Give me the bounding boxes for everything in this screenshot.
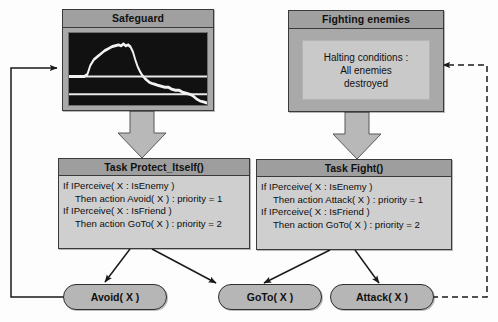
action-goto[interactable]: GoTo( X ) xyxy=(218,284,322,310)
edge-protect-to-goto xyxy=(152,249,216,283)
block-arrow-fighting-to-fight xyxy=(333,112,381,159)
module-safeguard-title: Safeguard xyxy=(63,10,213,28)
block-arrow-safeguard-to-protect xyxy=(118,111,166,158)
rule-line: Then action Attack( X ) : priority = 1 xyxy=(261,194,451,207)
task-fight[interactable]: Task Fight() If IPerceive( X : IsEnemy )… xyxy=(256,159,452,250)
rule-line: If IPerceive( X : IsEnemy ) xyxy=(63,180,249,193)
task-protect-itself-title: Task Protect_Itself() xyxy=(59,159,249,176)
signal-scope-trace xyxy=(69,33,208,106)
task-fight-title: Task Fight() xyxy=(257,160,451,177)
diagram-canvas: Safeguard Fighting enemies Halting condi… xyxy=(0,0,498,322)
rule-line: Then action Avoid( X ) : priority = 1 xyxy=(63,193,249,206)
rule-line: If IPerceive( X : IsEnemy ) xyxy=(261,181,451,194)
halting-line-1: Halting conditions : xyxy=(324,51,409,64)
action-avoid-label: Avoid( X ) xyxy=(91,291,140,303)
module-safeguard-body xyxy=(63,28,213,110)
rule-line: Then action GoTo( X ) : priority = 2 xyxy=(63,218,249,231)
action-attack[interactable]: Attack( X ) xyxy=(330,284,434,310)
module-fighting-enemies[interactable]: Fighting enemies Halting conditions : Al… xyxy=(288,10,444,112)
edge-fight-to-attack xyxy=(355,250,379,283)
task-protect-itself-rules: If IPerceive( X : IsEnemy ) Then action … xyxy=(59,176,249,233)
halting-line-2: All enemies xyxy=(340,64,392,77)
edge-fight-to-goto xyxy=(264,250,330,283)
task-fight-rules: If IPerceive( X : IsEnemy ) Then action … xyxy=(257,177,451,234)
task-protect-itself[interactable]: Task Protect_Itself() If IPerceive( X : … xyxy=(58,158,250,249)
rule-line: Then action GoTo( X ) : priority = 2 xyxy=(261,219,451,232)
module-safeguard[interactable]: Safeguard xyxy=(62,9,214,111)
action-attack-label: Attack( X ) xyxy=(356,291,408,303)
module-fighting-enemies-title: Fighting enemies xyxy=(289,11,443,29)
edge-avoid-feedback-to-safeguard xyxy=(11,68,64,297)
action-avoid[interactable]: Avoid( X ) xyxy=(63,284,167,310)
halting-line-3: destroyed xyxy=(344,77,388,90)
rule-line: If IPerceive( X : IsFriend ) xyxy=(63,205,249,218)
halting-conditions-panel: Halting conditions : All enemies destroy… xyxy=(302,40,430,100)
module-fighting-enemies-body: Halting conditions : All enemies destroy… xyxy=(289,29,443,111)
signal-scope xyxy=(68,32,208,106)
rule-line: If IPerceive( X : IsFriend ) xyxy=(261,206,451,219)
action-goto-label: GoTo( X ) xyxy=(247,291,293,303)
edge-protect-to-avoid xyxy=(105,249,130,282)
